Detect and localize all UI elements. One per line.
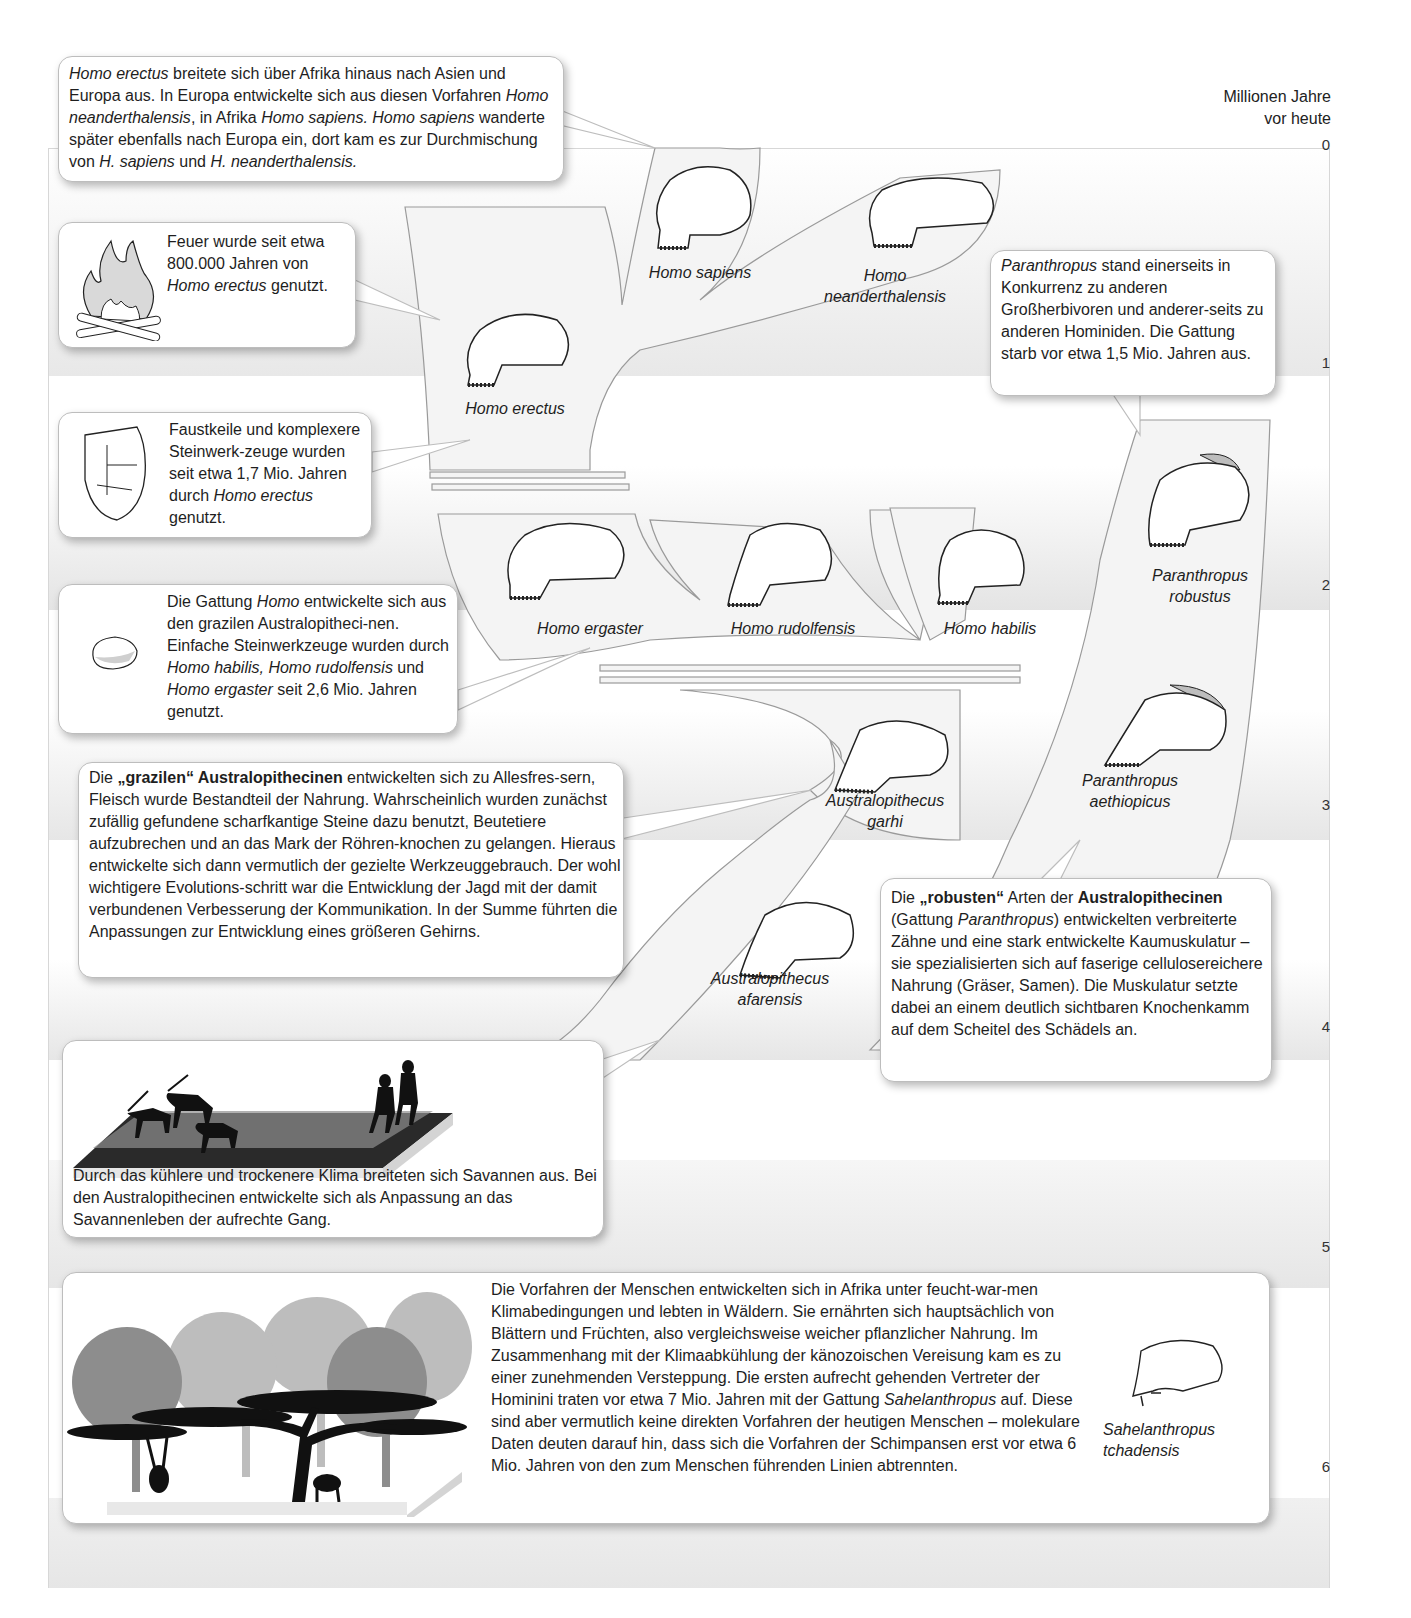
text-span: Feuer wurde seit etwa 800.000 Jahren von [167,233,324,272]
skull-paranthropus-aethiopicus-icon [1100,680,1240,775]
skull-homo-erectus-icon [462,305,582,395]
label-line: Sahelanthropus [1103,1419,1243,1440]
info-text: Die „robusten“ Arten der Australopitheci… [891,887,1269,1041]
info-box-savanna: Durch das kühlere und trockenere Klima b… [62,1040,604,1238]
skull-homo-ergaster-icon [500,510,635,610]
text-span: Die Vorfahren der Menschen entwickelten … [491,1281,1061,1408]
label-line: afarensis [695,989,845,1010]
bold-span: „robusten“ [919,889,1003,906]
label-line: aethiopicus [1065,791,1195,812]
text-span: Die [891,889,919,906]
label-line: Australopithecus [695,968,845,989]
label-line: garhi [810,811,960,832]
skull-sahelanthropus-icon [1123,1331,1233,1411]
bold-span: „grazilen“ Australopithecinen [117,769,342,786]
pebble-tool-icon [89,633,141,673]
text-span: , in Afrika [191,109,261,126]
italic-span: Homo erectus [213,487,313,504]
info-text: Die Vorfahren der Menschen entwickelten … [491,1279,1091,1477]
bold-span: Australopithecinen [1078,889,1223,906]
info-box-genus-homo: Die Gattung Homo entwickelte sich aus de… [58,584,458,734]
label-australopithecus-afarensis: Australopithecus afarensis [695,968,845,1010]
info-box-robust-australopithecines: Die „robusten“ Arten der Australopitheci… [880,878,1272,1082]
label-homo-rudolfensis: Homo rudolfensis [718,618,868,639]
italic-span: Homo [257,593,300,610]
italic-span: Homo habilis, Homo rudolfensis [167,659,393,676]
info-text: Paranthropus stand einerseits in Konkurr… [1001,255,1273,365]
italic-span: Sahelanthropus [884,1391,996,1408]
text-span: Arten der [1004,889,1078,906]
forest-scene-illustration [67,1287,475,1517]
info-text: Homo erectus breitete sich über Afrika h… [69,63,559,173]
savanna-scene-illustration [73,1053,453,1178]
skull-homo-habilis-icon [930,515,1030,615]
label-homo-sapiens: Homo sapiens [640,262,760,283]
label-line: tchadensis [1103,1440,1243,1461]
label-line: Paranthropus [1065,770,1195,791]
italic-span: Homo erectus [167,277,267,294]
skull-homo-rudolfensis-icon [720,510,840,615]
skull-homo-neanderthalensis-icon [862,168,1002,258]
skull-paranthropus-robustus-icon [1140,445,1260,555]
hominin-evolution-diagram: Millionen Jahre vor heute 0 1 2 3 4 5 6 [0,0,1411,1618]
label-line: Paranthropus [1135,565,1265,586]
label-line: Australopithecus [810,790,960,811]
text-span: und [175,153,211,170]
label-line: Homo [820,265,950,286]
text-span: genutzt. [267,277,328,294]
italic-span: Homo sapiens. Homo sapiens [261,109,474,126]
info-box-forest-ancestors: Die Vorfahren der Menschen entwickelten … [62,1272,1270,1524]
label-sahelanthropus-tchadensis: Sahelanthropus tchadensis [1103,1419,1243,1461]
italic-span: H. neanderthalensis. [210,153,357,170]
label-homo-neanderthalensis: Homo neanderthalensis [820,265,950,307]
info-text: Faustkeile und komplexere Steinwerk-zeug… [169,419,369,529]
info-box-handaxe: Faustkeile und komplexere Steinwerk-zeug… [58,412,372,538]
text-span: Die [89,769,117,786]
info-text: Die „grazilen“ Australopithecinen entwic… [89,767,621,943]
text-span: genutzt. [169,509,226,526]
italic-span: Paranthropus [958,911,1054,928]
italic-span: Paranthropus [1001,257,1097,274]
label-homo-habilis: Homo habilis [930,618,1050,639]
italic-span: Homo erectus [69,65,169,82]
italic-span: H. sapiens [99,153,175,170]
label-paranthropus-robustus: Paranthropus robustus [1135,565,1265,607]
skull-homo-sapiens-icon [650,160,760,260]
handaxe-icon [77,425,157,525]
label-paranthropus-aethiopicus: Paranthropus aethiopicus [1065,770,1195,812]
text-span: ) entwickelten verbreiterte Zähne und ei… [891,911,1263,1038]
campfire-icon [71,231,166,341]
label-line: neanderthalensis [820,286,950,307]
info-text: Feuer wurde seit etwa 800.000 Jahren von… [167,231,352,297]
label-australopithecus-garhi: Australopithecus garhi [810,790,960,832]
label-homo-erectus: Homo erectus [455,398,575,419]
text-span: und [393,659,424,676]
label-homo-ergaster: Homo ergaster [525,618,655,639]
text-span: (Gattung [891,911,958,928]
info-text: Durch das kühlere und trockenere Klima b… [73,1165,601,1231]
info-text: Die Gattung Homo entwickelte sich aus de… [167,591,455,723]
text-span: entwickelten sich zu Allesfres-sern, Fle… [89,769,621,940]
info-box-erectus-spread: Homo erectus breitete sich über Afrika h… [58,56,564,182]
italic-span: Homo ergaster [167,681,273,698]
info-box-fire: Feuer wurde seit etwa 800.000 Jahren von… [58,222,356,348]
info-box-gracile-australopithecines: Die „grazilen“ Australopithecinen entwic… [78,762,624,978]
text-span: Die Gattung [167,593,257,610]
info-box-paranthropus-competition: Paranthropus stand einerseits in Konkurr… [990,250,1276,396]
label-line: robustus [1135,586,1265,607]
